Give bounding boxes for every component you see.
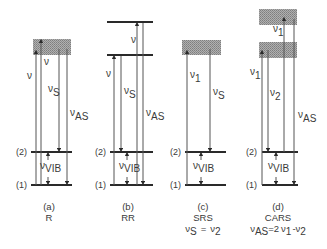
- nu-stokes-label: νS: [48, 83, 60, 98]
- nu-vib-label: νVIB: [119, 160, 140, 174]
- panel-c-stimulated-raman: ν1 νS νVIB (2) (1) (c) SRS νS=ν2: [170, 40, 226, 237]
- nu-vib-label: νVIB: [193, 160, 214, 174]
- panel-letter: (d): [272, 201, 284, 212]
- level-2-label: (2): [16, 147, 27, 157]
- cars-formula: νAS=2ν1-ν2: [250, 223, 306, 237]
- nu-2-label: ν2: [270, 87, 281, 102]
- nu-label: ν: [106, 68, 111, 79]
- panel-b-resonance-raman: ν ν νS νAS νVIB (2) (1) (b) RR: [95, 22, 165, 223]
- panel-letter: (a): [43, 201, 55, 212]
- panel-name: CARS: [265, 212, 291, 223]
- nu-stokes-label: νS: [124, 85, 136, 100]
- virtual-state-box-lower: [259, 42, 297, 58]
- level-1-label: (1): [170, 180, 181, 190]
- nu-label: ν: [131, 34, 136, 45]
- level-2-label: (2): [246, 147, 257, 157]
- nu-antistokes-label: νAS: [146, 107, 165, 122]
- level-2-label: (2): [95, 147, 106, 157]
- srs-formula: νS=ν2: [185, 223, 221, 237]
- nu-1-label-top: ν1: [273, 23, 284, 38]
- virtual-state-box: [33, 39, 71, 55]
- nu-antistokes-label: νAS: [70, 107, 89, 122]
- nu-vib-label: νVIB: [268, 160, 289, 174]
- nu-1-label: ν1: [190, 69, 201, 84]
- nu-label: ν: [27, 70, 32, 81]
- panel-name: RR: [121, 212, 135, 223]
- raman-energy-diagram: ν ν νS νAS νVIB (2) (1) (a) R ν ν νS νAS…: [0, 0, 327, 249]
- nu-vib-label: νVIB: [40, 160, 61, 174]
- panel-a-rayleigh: ν ν νS νAS νVIB (2) (1) (a) R: [16, 39, 89, 223]
- level-1-label: (1): [16, 180, 27, 190]
- virtual-state-box: [182, 40, 221, 55]
- panel-name: SRS: [193, 212, 213, 223]
- nu-antistokes-label: νAS: [298, 109, 317, 124]
- nu-label: ν: [44, 56, 49, 67]
- level-1-label: (1): [95, 180, 106, 190]
- level-1-label: (1): [246, 180, 257, 190]
- panel-d-cars: ν1 ν1 ν2 νAS νVIB (2) (1) (d) CARS νAS=2…: [246, 9, 317, 237]
- panel-name: R: [46, 212, 53, 223]
- panel-letter: (b): [122, 201, 134, 212]
- level-2-label: (2): [170, 147, 181, 157]
- panel-letter: (c): [197, 201, 208, 212]
- nu-stokes-label: νS: [213, 86, 225, 101]
- virtual-state-box-upper: [259, 9, 297, 25]
- nu-1-label: ν1: [250, 66, 261, 81]
